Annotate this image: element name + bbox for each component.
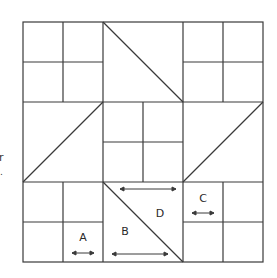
label-b: B (121, 225, 129, 238)
bottom-left-four-patch (23, 182, 103, 262)
middle-left-diagonal (23, 102, 103, 182)
top-right-four-patch (183, 22, 263, 102)
label-d: D (156, 207, 164, 220)
arrow-c-icon (192, 211, 214, 215)
arrow-d-icon (120, 187, 176, 191)
center-four-patch (103, 102, 183, 182)
clipped-text-fragment: r (0, 152, 4, 163)
quilt-diagram: A B C D (0, 0, 277, 278)
middle-right-diagonal (183, 102, 263, 182)
arrow-b-icon (112, 252, 168, 256)
bottom-center-diagonal (103, 182, 183, 262)
top-left-four-patch (23, 22, 103, 102)
clipped-text-fragment: . (0, 168, 3, 177)
arrow-a-icon (72, 251, 94, 255)
bottom-right-four-patch (183, 182, 263, 262)
top-center-diagonal (103, 22, 183, 102)
label-c: C (199, 192, 207, 205)
label-a: A (79, 231, 87, 244)
grid-lines (23, 22, 263, 262)
